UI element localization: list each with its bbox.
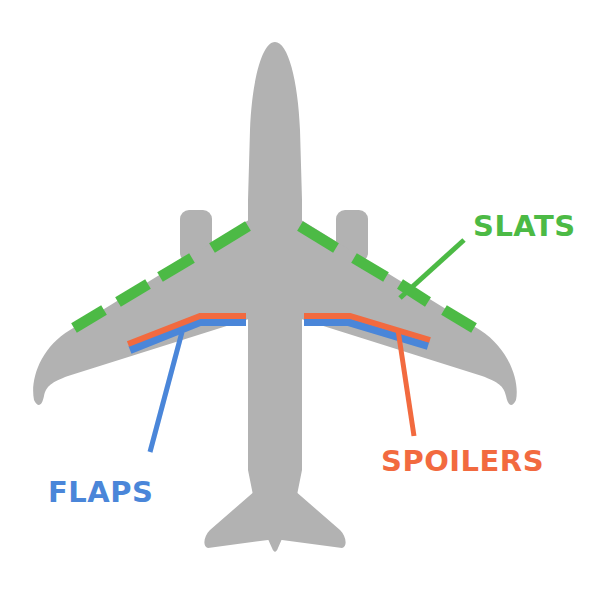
flaps-leader-line	[150, 332, 182, 452]
flaps-label: FLAPS	[48, 478, 153, 507]
fuselage	[248, 42, 302, 552]
horizontal-stabilizer	[204, 490, 345, 548]
slats-leader-line	[400, 240, 464, 298]
spoilers-label: SPOILERS	[381, 447, 544, 476]
slats-label: SLATS	[473, 212, 576, 241]
